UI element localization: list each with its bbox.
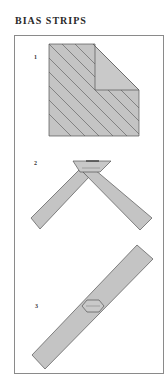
step-2-strips: [31, 161, 152, 230]
step-3-strip: [32, 245, 153, 369]
folded-corner: [93, 44, 139, 90]
bias-strips-diagram: [0, 0, 168, 381]
step-1-square: [49, 44, 167, 136]
